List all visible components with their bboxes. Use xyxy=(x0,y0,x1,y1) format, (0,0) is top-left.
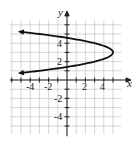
x-tick-label-neg4: -4 xyxy=(26,81,34,92)
y-tick-label-4: 4 xyxy=(57,38,62,49)
parabola-graph: x y -4 -2 2 4 4 2 -2 -4 xyxy=(0,0,139,142)
y-axis-label: y xyxy=(57,6,63,18)
x-tick-label-2: 2 xyxy=(82,81,87,92)
x-axis-label: x xyxy=(126,77,132,89)
x-tick-label-4: 4 xyxy=(100,81,105,92)
axis-ticks xyxy=(12,25,113,126)
y-tick-label-neg2: -2 xyxy=(54,93,62,104)
y-tick-label-2: 2 xyxy=(57,56,62,67)
x-tick-label-neg2: -2 xyxy=(44,81,52,92)
y-tick-label-neg4: -4 xyxy=(54,111,62,122)
